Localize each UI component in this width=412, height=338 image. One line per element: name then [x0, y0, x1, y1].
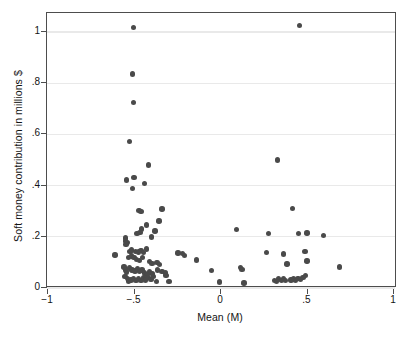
data-point: [290, 206, 295, 211]
x-tick-mark-4: [393, 288, 394, 294]
y-tick-label-3: .6: [10, 128, 40, 138]
x-tick-label-3: .5: [287, 294, 327, 305]
data-point: [144, 246, 149, 251]
data-point: [275, 157, 280, 162]
data-point: [138, 209, 143, 214]
data-point: [140, 255, 145, 260]
x-tick-label-0: −1: [27, 294, 67, 305]
y-tick-text: .2: [14, 231, 40, 241]
data-point: [266, 231, 271, 236]
gridline-y-1: [47, 236, 395, 237]
data-point: [241, 280, 246, 285]
data-point: [264, 250, 269, 255]
gridline-y-4: [47, 83, 395, 84]
x-tick-mark-0: [47, 288, 48, 294]
data-point: [123, 242, 128, 247]
gridline-y-3: [47, 134, 395, 135]
data-point: [281, 251, 286, 256]
gridline-y-5: [47, 31, 395, 32]
x-tick-label-2: 0: [200, 294, 240, 305]
x-tick-label-1: −.5: [114, 294, 154, 305]
data-point: [337, 264, 342, 269]
data-point: [149, 234, 154, 239]
x-axis-label: Mean (M): [47, 311, 393, 323]
y-axis-label: Soft money contribution in millions $: [9, 12, 27, 300]
y-tick-text: 1: [14, 26, 40, 36]
data-point: [152, 228, 157, 233]
y-tick-label-2: .4: [10, 180, 40, 190]
y-tick-label-4: .8: [10, 77, 40, 87]
data-point: [217, 279, 222, 284]
y-tick-label-1: .2: [10, 231, 40, 241]
x-tick-mark-1: [134, 288, 135, 294]
data-point: [159, 206, 164, 211]
data-point: [127, 139, 132, 144]
data-point: [131, 100, 136, 105]
y-tick-text: .6: [14, 128, 40, 138]
data-point: [154, 279, 159, 284]
data-point: [166, 279, 171, 284]
data-point: [134, 231, 139, 236]
plot-area: [46, 12, 396, 287]
data-point: [156, 218, 161, 223]
data-point: [144, 222, 149, 227]
data-point: [303, 273, 308, 278]
data-point: [163, 273, 168, 278]
data-point: [112, 252, 117, 257]
gridline-y-2: [47, 185, 395, 186]
gridline-y-0: [47, 287, 395, 288]
data-point: [284, 261, 289, 266]
x-tick-label-4: 1: [373, 294, 412, 305]
data-point: [182, 253, 187, 258]
y-tick-label-5: 1: [10, 26, 40, 36]
y-tick-text: .8: [14, 77, 40, 87]
y-tick-label-0: 0: [10, 282, 40, 292]
data-point: [296, 231, 301, 236]
y-tick-text: .4: [14, 180, 40, 190]
data-point: [131, 175, 136, 180]
data-point: [142, 181, 147, 186]
data-point: [304, 230, 309, 235]
scatter-plot-figure: Soft money contribution in millions $ Me…: [0, 0, 412, 338]
data-point: [131, 25, 136, 30]
x-tick-mark-2: [220, 288, 221, 294]
data-point: [130, 186, 135, 191]
data-point: [302, 249, 307, 254]
y-tick-text: 0: [14, 282, 40, 292]
data-point: [209, 268, 214, 273]
x-tick-mark-3: [307, 288, 308, 294]
data-point: [124, 177, 129, 182]
data-point: [297, 23, 302, 28]
data-point: [239, 267, 244, 272]
data-point: [146, 162, 151, 167]
data-point: [194, 257, 199, 262]
data-point: [304, 258, 309, 263]
data-point: [130, 71, 135, 76]
data-point: [234, 227, 239, 232]
